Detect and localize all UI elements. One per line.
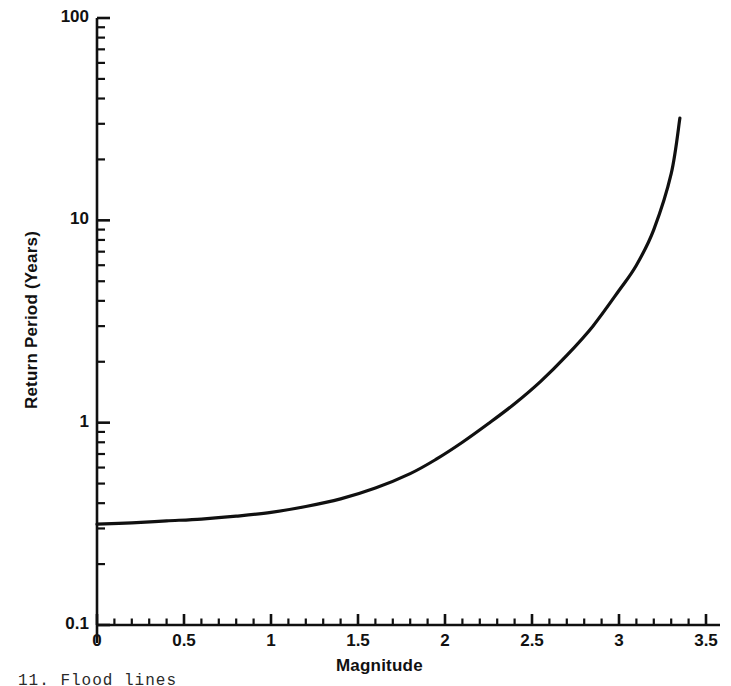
x-tick-label: 1.5 bbox=[328, 631, 388, 651]
y-tick-label: 0.1 bbox=[25, 614, 89, 634]
tick-marks bbox=[97, 18, 706, 625]
x-tick-label: 0 bbox=[67, 631, 127, 651]
figure-panel: Return Period (Years) Magnitude 00.511.5… bbox=[0, 0, 731, 686]
y-tick-label: 100 bbox=[25, 7, 89, 27]
x-tick-label: 3 bbox=[589, 631, 649, 651]
y-tick-label: 10 bbox=[25, 209, 89, 229]
series-line-0 bbox=[97, 118, 680, 524]
x-tick-label: 2 bbox=[415, 631, 475, 651]
y-axis-label: Return Period (Years) bbox=[22, 215, 42, 425]
x-tick-label: 0.5 bbox=[154, 631, 214, 651]
x-tick-label: 3.5 bbox=[676, 631, 731, 651]
x-tick-label: 1 bbox=[241, 631, 301, 651]
figure-caption: 11. Flood lines bbox=[18, 672, 177, 686]
x-tick-label: 2.5 bbox=[502, 631, 562, 651]
x-axis-label: Magnitude bbox=[336, 656, 423, 676]
y-tick-label: 1 bbox=[25, 412, 89, 432]
axes bbox=[97, 18, 720, 643]
log-line-chart bbox=[0, 0, 731, 686]
data-series bbox=[97, 118, 680, 524]
